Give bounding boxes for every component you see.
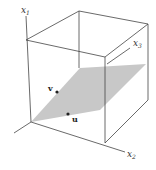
- point-u: [66, 112, 69, 115]
- x1-label: x1: [21, 5, 30, 16]
- x3-axis-negative: [14, 122, 31, 133]
- plane-surface: [31, 64, 146, 122]
- v-label: v: [47, 83, 53, 93]
- x3-label: x3: [133, 38, 142, 49]
- u-label: u: [72, 114, 78, 124]
- diagram-figure: x1 x2 x3 v u: [0, 0, 156, 170]
- point-v: [55, 90, 58, 93]
- x2-label: x2: [127, 149, 136, 160]
- x1-axis: [26, 16, 31, 122]
- x3-axis: [107, 48, 130, 64]
